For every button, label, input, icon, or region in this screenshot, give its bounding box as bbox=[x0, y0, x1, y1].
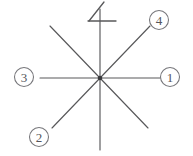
label-1: 1 bbox=[161, 68, 180, 87]
ray-diagram: 1 2 3 4 bbox=[0, 0, 193, 156]
label-4-text: 4 bbox=[156, 13, 163, 28]
label-1-text: 1 bbox=[167, 70, 174, 85]
label-2: 2 bbox=[30, 128, 49, 147]
label-4: 4 bbox=[150, 11, 169, 30]
center-point bbox=[98, 76, 103, 81]
label-3-text: 3 bbox=[21, 70, 28, 85]
label-2-text: 2 bbox=[36, 130, 43, 145]
figure-canvas: 1 2 3 4 bbox=[0, 0, 193, 156]
top-numeral-4-glyph bbox=[88, 2, 116, 21]
label-3: 3 bbox=[15, 68, 34, 87]
